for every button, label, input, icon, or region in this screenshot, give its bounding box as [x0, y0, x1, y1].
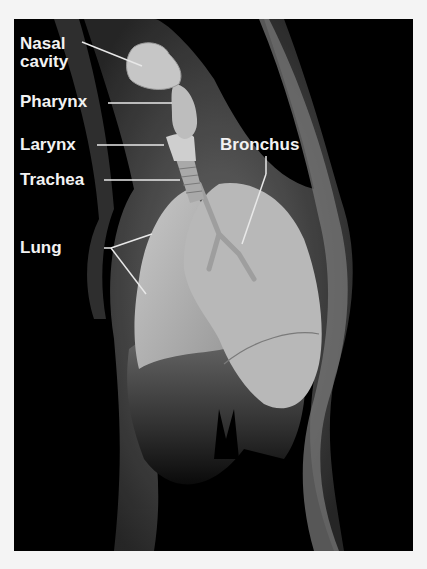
label-larynx: Larynx — [20, 136, 76, 154]
label-nasal-cavity: Nasal cavity — [20, 35, 68, 71]
label-trachea: Trachea — [20, 171, 84, 189]
label-bronchus: Bronchus — [220, 136, 299, 154]
label-nasal-line1: Nasal — [20, 35, 68, 53]
diagram-frame: Nasal cavity Pharynx Larynx Trachea Lung… — [14, 19, 413, 551]
label-lung: Lung — [20, 239, 62, 257]
label-nasal-line2: cavity — [20, 53, 68, 71]
label-pharynx: Pharynx — [20, 93, 87, 111]
